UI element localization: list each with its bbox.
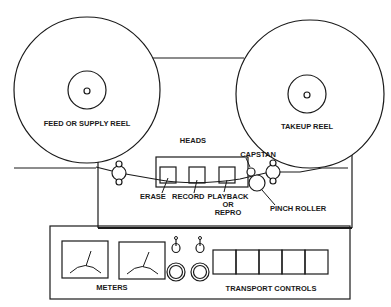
right-tape-guide [266, 160, 280, 184]
meter-1 [62, 241, 108, 278]
pinch-roller-label: PINCH ROLLER [270, 204, 327, 213]
transport-button-2[interactable] [236, 250, 259, 274]
left-tape-guide [112, 161, 126, 185]
tape-recorder-diagram: FEED OR SUPPLY REEL TAKEUP REEL HEADS CA… [0, 0, 391, 307]
transport-controls-label: TRANSPORT CONTROLS [226, 284, 317, 293]
supply-reel-label: FEED OR SUPPLY REEL [44, 119, 131, 128]
supply-reel: FEED OR SUPPLY REEL [14, 17, 160, 163]
record-label: RECORD [172, 192, 205, 201]
tape-path [96, 167, 348, 183]
meters-label: METERS [96, 283, 127, 292]
knob-1[interactable] [167, 263, 185, 281]
transport-button-3[interactable] [259, 250, 282, 274]
heads-label: HEADS [180, 136, 206, 145]
pinch-roller-leader [262, 190, 275, 205]
takeup-reel-label: TAKEUP REEL [281, 122, 334, 131]
toggle-switch-1[interactable] [172, 237, 180, 253]
toggle-switch-2[interactable] [196, 237, 204, 253]
transport-button-5[interactable] [305, 250, 328, 274]
knob-2[interactable] [191, 263, 209, 281]
playback-leader [224, 180, 227, 192]
capstan [247, 168, 255, 176]
pinch-roller [249, 175, 265, 191]
meter-2 [119, 242, 165, 279]
erase-label: ERASE [140, 192, 166, 201]
playback-label-3: REPRO [215, 208, 242, 217]
capstan-label: CAPSTAN [240, 150, 276, 159]
transport-controls [213, 250, 328, 274]
transport-button-4[interactable] [282, 250, 305, 274]
transport-button-1[interactable] [213, 250, 236, 274]
takeup-reel: TAKEUP REEL [236, 20, 384, 168]
